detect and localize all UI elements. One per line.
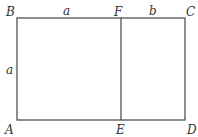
- label-b-vertex: B: [5, 5, 15, 19]
- label-segment-bf: a: [63, 4, 70, 18]
- rectangle-abcd: [17, 18, 185, 120]
- label-a-vertex: A: [4, 123, 14, 137]
- label-d-vertex: D: [186, 123, 197, 137]
- label-segment-fc: b: [149, 4, 157, 18]
- label-e-vertex: E: [115, 123, 125, 137]
- label-c-vertex: C: [186, 5, 195, 19]
- label-segment-ab: a: [6, 63, 13, 77]
- golden-rectangle-diagram: B F C A E D a b a: [0, 0, 198, 137]
- label-f-vertex: F: [113, 5, 123, 19]
